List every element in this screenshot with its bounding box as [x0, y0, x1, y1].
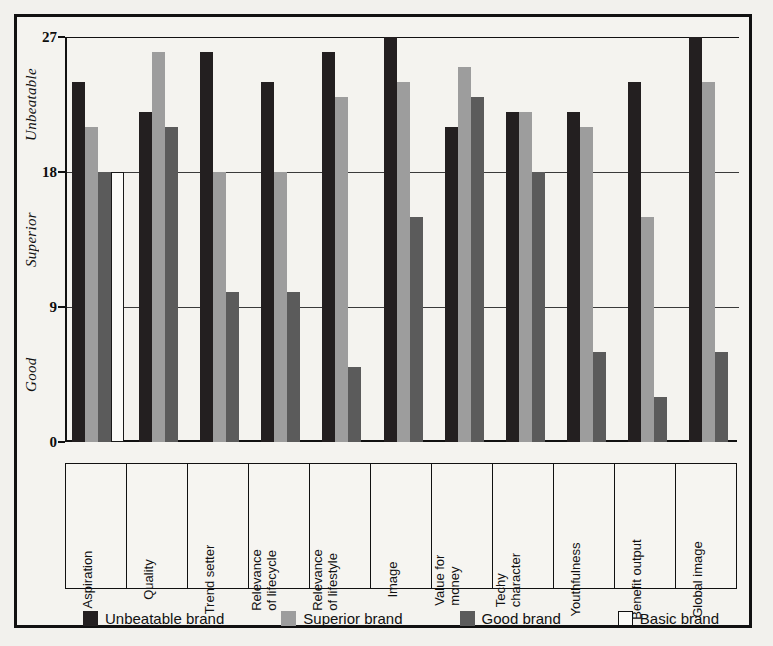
y-tick-label: 27 — [42, 29, 57, 46]
bar — [410, 217, 423, 442]
bar — [702, 82, 715, 442]
category-cell: Techycharacter — [493, 464, 554, 588]
bar-group — [250, 37, 311, 442]
category-label: Quality — [142, 560, 157, 600]
category-label-line: Value for — [433, 554, 448, 605]
bar — [384, 37, 397, 442]
y-band-label-good: Good — [23, 313, 40, 436]
category-label-line: Aspiration — [81, 551, 96, 609]
category-label-line: Relevance — [250, 549, 265, 610]
y-tick-label: 18 — [42, 164, 57, 181]
category-cell: Aspiration — [66, 464, 127, 588]
y-tick-label: 0 — [50, 434, 58, 451]
bar — [519, 112, 532, 442]
bar — [628, 82, 641, 442]
bar-group — [495, 37, 556, 442]
bar — [532, 172, 545, 442]
category-cell: Quality — [127, 464, 188, 588]
bar — [200, 52, 213, 442]
bar-group — [128, 37, 189, 442]
category-label-line: of lifestyle — [325, 549, 340, 610]
bar — [85, 127, 98, 442]
bar-group — [556, 37, 617, 442]
bar — [348, 367, 361, 442]
category-cell: Relevanceof lifestyle — [310, 464, 371, 588]
white-swatch — [618, 611, 633, 626]
bar — [335, 97, 348, 442]
bar — [322, 52, 335, 442]
bar — [98, 172, 111, 442]
bar — [261, 82, 274, 442]
bar-group — [372, 37, 433, 442]
category-cell: Image — [371, 464, 432, 588]
bar — [72, 82, 85, 442]
category-label-line: Quality — [142, 560, 157, 600]
category-label: Relevanceof lifestyle — [311, 549, 340, 610]
category-label: Relevanceof lifecycle — [250, 549, 279, 610]
legend-item[interactable]: Superior brand — [281, 610, 402, 627]
bar-group — [678, 37, 739, 442]
bar-group — [311, 37, 372, 442]
bar — [152, 52, 165, 442]
figure-frame: 091827GoodSuperiorUnbeatable AspirationQ… — [14, 14, 752, 628]
plot-wrapper: 091827GoodSuperiorUnbeatable — [65, 37, 737, 462]
category-label-line: Image — [386, 562, 401, 598]
legend-label: Good brand — [482, 610, 561, 627]
legend-item[interactable]: Good brand — [460, 610, 561, 627]
legend-label: Basic brand — [640, 610, 719, 627]
bar — [139, 112, 152, 442]
category-cell: Youthfulness — [554, 464, 615, 588]
bar — [397, 82, 410, 442]
legend-label: Superior brand — [303, 610, 402, 627]
category-cell: Trend setter — [188, 464, 249, 588]
bar — [593, 352, 606, 442]
y-tick-label: 9 — [50, 299, 58, 316]
chart-legend: Unbeatable brandSuperior brandGood brand… — [65, 603, 737, 633]
bar — [567, 112, 580, 442]
chart-page: 091827GoodSuperiorUnbeatable AspirationQ… — [0, 0, 773, 646]
bar — [287, 292, 300, 442]
category-label-line: Techy — [494, 553, 509, 607]
bar — [689, 37, 702, 442]
bar — [165, 127, 178, 442]
legend-label: Unbeatable brand — [105, 610, 224, 627]
category-cell: Global image — [676, 464, 736, 588]
plot-area — [65, 37, 737, 442]
bar-group — [617, 37, 678, 442]
bar-group — [189, 37, 250, 442]
category-cell: Value formoney — [432, 464, 493, 588]
category-label-line: of lifecycle — [264, 549, 279, 610]
bar — [274, 172, 287, 442]
dark-swatch — [83, 611, 98, 626]
y-tick-mark — [58, 306, 65, 308]
bar — [506, 112, 519, 442]
bar — [580, 127, 593, 442]
bar — [641, 217, 654, 442]
y-tick-mark — [58, 441, 65, 443]
bar-groups — [67, 37, 739, 442]
bar — [111, 172, 124, 442]
category-label-line: Relevance — [311, 549, 326, 610]
bar-group — [67, 37, 128, 442]
legend-item[interactable]: Unbeatable brand — [83, 610, 224, 627]
bar-group — [434, 37, 495, 442]
category-cell: Relevanceof lifecycle — [249, 464, 310, 588]
bar — [445, 127, 458, 442]
bar — [226, 292, 239, 442]
category-label-line: money — [447, 554, 462, 605]
bar — [458, 67, 471, 442]
bar — [715, 352, 728, 442]
light-gray-swatch — [281, 611, 296, 626]
bar — [471, 97, 484, 442]
y-band-label-superior: Superior — [23, 178, 40, 301]
category-label: Techycharacter — [494, 553, 523, 607]
bar — [654, 397, 667, 442]
category-label: Aspiration — [81, 551, 96, 609]
category-axis: AspirationQualityTrend setterRelevanceof… — [65, 463, 737, 589]
legend-item[interactable]: Basic brand — [618, 610, 719, 627]
category-label: Value formoney — [433, 554, 462, 605]
y-tick-mark — [58, 171, 65, 173]
bar — [213, 172, 226, 442]
mid-gray-swatch — [460, 611, 475, 626]
y-tick-mark — [58, 36, 65, 38]
